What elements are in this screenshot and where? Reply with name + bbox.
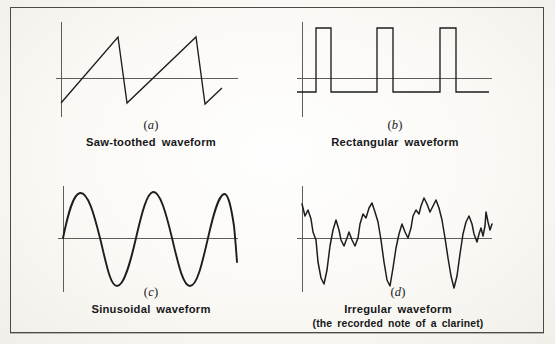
caption-saw-toothed: (a) Saw-toothed waveform — [62, 118, 240, 150]
panel-rectangular — [277, 0, 555, 130]
panel-title-c: Sinusoidal waveform — [62, 303, 240, 317]
panel-subtitle-d: (the recorded note of a clarinet) — [300, 318, 496, 331]
irregular-chart — [277, 176, 555, 296]
panel-irregular — [277, 176, 555, 296]
panel-saw-toothed — [0, 0, 277, 130]
caption-irregular: (d) Irregular waveform (the recorded not… — [300, 285, 496, 331]
saw-toothed-trace — [61, 37, 222, 104]
saw-toothed-chart — [0, 0, 277, 130]
rectangular-trace — [297, 28, 489, 92]
sinusoidal-chart — [0, 176, 277, 296]
panel-title-d: Irregular waveform — [300, 303, 496, 317]
rectangular-chart — [277, 0, 555, 130]
caption-sinusoidal: (c) Sinusoidal waveform — [62, 285, 240, 317]
panel-title-b: Rectangular waveform — [300, 136, 490, 150]
panel-title-a: Saw-toothed waveform — [62, 136, 240, 150]
panel-letter-a: (a) — [62, 118, 240, 133]
panel-letter-b: (b) — [300, 118, 490, 133]
panel-sinusoidal — [0, 176, 277, 296]
caption-rectangular: (b) Rectangular waveform — [300, 118, 490, 150]
figure-page: (a) Saw-toothed waveform (b) Rectangular… — [0, 0, 555, 344]
panel-letter-d: (d) — [300, 285, 496, 300]
irregular-trace — [302, 198, 492, 288]
panel-letter-c: (c) — [62, 285, 240, 300]
